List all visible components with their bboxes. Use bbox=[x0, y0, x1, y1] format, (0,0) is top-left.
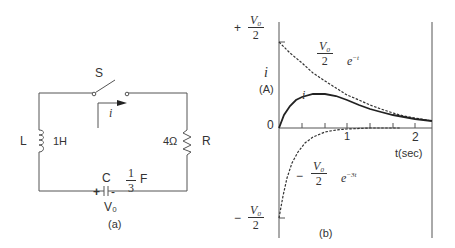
graph-caption: (b) bbox=[319, 228, 332, 239]
circuit-caption: (a) bbox=[108, 219, 121, 230]
upper-curve-label: V₀2 bbox=[317, 40, 333, 67]
x-tick-2: 2 bbox=[412, 131, 419, 143]
resistor-zigzag bbox=[183, 130, 191, 155]
capacitor-name: C bbox=[102, 172, 111, 184]
i-curve-label: i bbox=[302, 89, 305, 101]
current-arrow bbox=[98, 100, 127, 128]
lower-curve-label: V₀2 bbox=[311, 160, 327, 187]
capacitor-plus: + bbox=[93, 186, 100, 198]
y-axis-unit: (A) bbox=[259, 84, 274, 95]
capacitor-unit: F bbox=[140, 173, 147, 185]
resistor-name: R bbox=[202, 135, 211, 147]
y-top-sign: + bbox=[234, 22, 241, 34]
y-axis-label: i bbox=[264, 66, 268, 80]
resistor-value: 4Ω bbox=[163, 136, 177, 147]
inductor-value: 1H bbox=[53, 136, 67, 147]
switch bbox=[92, 80, 129, 96]
y-bottom-sign: − bbox=[234, 212, 241, 224]
y-bottom-value: V₀2 bbox=[248, 204, 264, 231]
inductor-coil bbox=[39, 130, 44, 152]
lower-curve-sign: − bbox=[296, 170, 303, 182]
lower-curve-exp: e−3t bbox=[341, 172, 357, 184]
y-top-value: V₀2 bbox=[248, 14, 264, 41]
inductor-name: L bbox=[20, 135, 27, 147]
capacitor-value: 1 3 bbox=[126, 167, 136, 194]
capacitor-voltage: V₀ bbox=[104, 201, 117, 213]
switch-label: S bbox=[95, 67, 103, 79]
upper-curve-exp: e−t bbox=[347, 55, 359, 67]
x-axis-label: t(sec) bbox=[395, 148, 423, 159]
capacitor-minus: - bbox=[111, 186, 115, 198]
y-zero-label: 0 bbox=[267, 119, 274, 131]
figure-canvas bbox=[0, 0, 455, 248]
current-label: i bbox=[109, 107, 112, 119]
x-tick-1: 1 bbox=[344, 131, 350, 142]
